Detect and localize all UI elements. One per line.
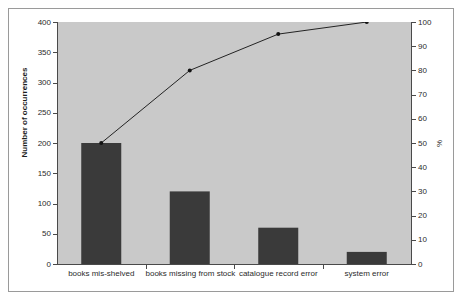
y-axis-left-tick	[53, 52, 57, 53]
y-axis-right-tick-label: 60	[418, 114, 448, 123]
cumulative-marker	[365, 22, 369, 24]
y-axis-right-tick	[412, 119, 416, 120]
y-axis-right-tick-label: 30	[418, 187, 448, 196]
x-axis-category-label: system error	[323, 269, 412, 279]
cumulative-marker	[99, 141, 103, 145]
x-axis-category-label: books mis-shelved	[57, 269, 146, 279]
bar	[258, 228, 298, 264]
y-axis-right-tick	[412, 22, 416, 23]
y-axis-right-tick	[412, 191, 416, 192]
y-axis-right-tick	[412, 46, 416, 47]
y-axis-right-tick-label: 10	[418, 235, 448, 244]
y-axis-left-tick	[53, 83, 57, 84]
y-axis-right-tick-label: 40	[418, 163, 448, 172]
cumulative-markers-group	[99, 22, 369, 145]
y-axis-right-tick	[412, 95, 416, 96]
y-axis-right-tick-label: 0	[418, 260, 448, 269]
bar	[347, 252, 387, 264]
y-axis-left-title: Number of occurrences	[20, 48, 29, 178]
y-axis-left-tick-label: 0	[21, 260, 51, 269]
cumulative-line	[101, 22, 367, 143]
plot-svg	[57, 22, 411, 264]
bars-group	[81, 143, 387, 264]
y-axis-left-tick-label: 100	[21, 199, 51, 208]
y-axis-right-tick-label: 50	[418, 139, 448, 148]
plot-area	[57, 22, 411, 264]
y-axis-left-tick-label: 400	[21, 18, 51, 27]
y-axis-left-tick	[53, 204, 57, 205]
cumulative-marker	[188, 68, 192, 72]
bar	[81, 143, 121, 264]
y-axis-right-tick	[412, 70, 416, 71]
y-axis-right-tick	[412, 167, 416, 168]
y-axis-left-tick	[53, 264, 57, 265]
pareto-chart: 050100150200250300350400 010203040506070…	[0, 0, 463, 300]
y-axis-right-tick	[412, 216, 416, 217]
y-axis-right-tick-label: 70	[418, 90, 448, 99]
y-axis-right-tick-label: 100	[418, 18, 448, 27]
cumulative-line-group	[101, 22, 367, 143]
y-axis-right-title: %	[435, 134, 444, 154]
y-axis-left-tick	[53, 143, 57, 144]
x-axis-category-label: books missing from stock	[146, 269, 235, 279]
y-axis-left	[57, 22, 58, 265]
bar	[170, 191, 210, 264]
y-axis-right-tick-label: 20	[418, 211, 448, 220]
y-axis-right-tick	[412, 264, 416, 265]
y-axis-left-tick	[53, 113, 57, 114]
x-axis-category-label: catalogue record error	[234, 269, 323, 279]
y-axis-left-tick	[53, 173, 57, 174]
y-axis-right-tick-label: 80	[418, 66, 448, 75]
y-axis-left-tick	[53, 234, 57, 235]
y-axis-right-tick-label: 90	[418, 42, 448, 51]
y-axis-left-tick-label: 50	[21, 229, 51, 238]
y-axis-right-tick	[412, 143, 416, 144]
y-axis-left-tick	[53, 22, 57, 23]
cumulative-marker	[276, 32, 280, 36]
y-axis-right-tick	[412, 240, 416, 241]
